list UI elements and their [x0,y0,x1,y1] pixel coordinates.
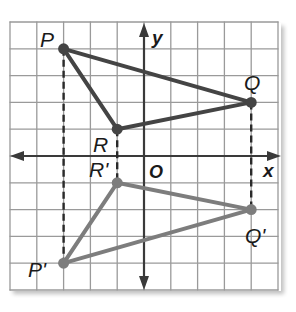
label-P-prime: P' [28,258,47,281]
label-R: R [93,133,108,156]
coordinate-plane-diagram: P Q R R' Q' P' y x O [0,0,296,312]
point-P [58,43,69,54]
label-x-axis: x [262,160,275,181]
label-y-axis: y [151,27,164,48]
label-P: P [40,28,54,51]
label-origin: O [149,162,163,182]
point-Q [246,97,257,108]
point-P-prime [58,258,69,269]
label-Q: Q [244,71,260,94]
point-R-prime [112,177,123,188]
point-R [112,124,123,135]
label-R-prime: R' [89,158,109,181]
point-Q-prime [246,204,257,215]
label-Q-prime: Q' [245,224,266,247]
